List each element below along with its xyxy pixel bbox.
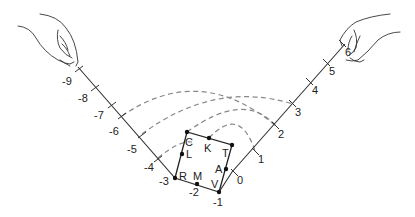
left-hand-icon xyxy=(18,14,78,66)
quad-outline xyxy=(175,132,232,192)
label-l: L xyxy=(186,148,192,160)
label-neg7: -7 xyxy=(94,109,104,121)
label-m: M xyxy=(193,170,202,182)
label-neg6: -6 xyxy=(109,125,119,137)
arc-from-c xyxy=(187,109,276,132)
label-neg4: -4 xyxy=(144,161,154,173)
label-a: A xyxy=(215,163,223,175)
label-2: 2 xyxy=(278,128,284,140)
point-v xyxy=(217,190,221,194)
string xyxy=(78,44,345,192)
label-k: K xyxy=(204,142,212,154)
string-v xyxy=(78,44,345,192)
point-k xyxy=(207,136,211,140)
label-neg8: -8 xyxy=(78,92,88,104)
quadrilateral xyxy=(175,132,232,192)
point-c xyxy=(185,130,189,134)
label-v: V xyxy=(211,178,219,190)
point-l xyxy=(180,152,184,156)
label-5: 5 xyxy=(329,65,335,77)
label-c: C xyxy=(185,136,193,148)
label-neg2: -2 xyxy=(189,186,199,198)
points xyxy=(173,130,234,194)
label-neg5: -5 xyxy=(127,143,137,155)
label-neg3: -3 xyxy=(159,175,169,187)
point-r xyxy=(173,176,177,180)
label-neg1: -1 xyxy=(213,196,223,208)
label-1: 1 xyxy=(258,153,264,165)
label-4: 4 xyxy=(312,84,318,96)
point-a xyxy=(224,167,228,171)
point-t xyxy=(230,143,234,147)
label-r: R xyxy=(179,170,187,182)
label-0: 0 xyxy=(237,174,243,186)
label-neg9: -9 xyxy=(62,75,72,87)
label-3: 3 xyxy=(295,106,301,118)
right-scale-labels: 0 1 2 3 4 5 6 xyxy=(237,46,351,186)
label-t: T xyxy=(222,147,229,159)
diagram-canvas: C K T L A R M V -9 -8 -7 -6 -5 -4 -3 -2 … xyxy=(0,0,415,217)
